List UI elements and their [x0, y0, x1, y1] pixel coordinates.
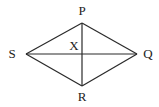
edge-rs [26, 54, 82, 86]
vertex-label-s: S [8, 46, 15, 61]
intersection-label-x: X [69, 38, 79, 53]
rhombus-diagram: P Q R S X [0, 0, 159, 107]
vertex-label-r: R [78, 89, 87, 104]
vertex-label-q: Q [143, 46, 153, 61]
edge-qr [82, 54, 137, 86]
vertex-label-p: P [78, 3, 85, 18]
edge-pq [82, 23, 137, 54]
